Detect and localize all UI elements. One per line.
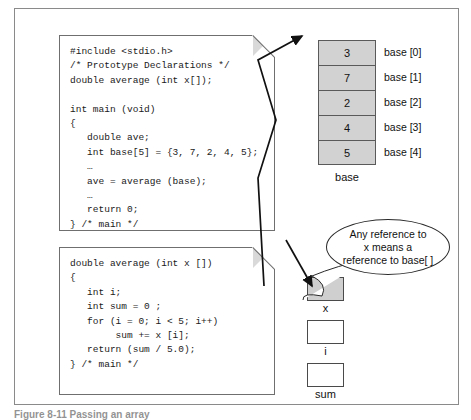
array-cell: 5 xyxy=(318,140,376,165)
variable-box-i xyxy=(307,320,344,344)
array-cell-value: 2 xyxy=(344,97,350,109)
array-index-label: base [4] xyxy=(384,146,421,158)
array-index-label: base [1] xyxy=(384,71,421,83)
callout-line-2: x means a xyxy=(364,241,412,254)
array-name-label: base xyxy=(318,171,376,183)
array-cell: 2 xyxy=(318,90,376,115)
array-cell: 3 xyxy=(318,40,376,65)
code-text-main: #include <stdio.h> /* Prototype Declarat… xyxy=(60,36,274,238)
array-cell-value: 5 xyxy=(344,147,350,159)
array-cell: 7 xyxy=(318,65,376,90)
callout-line-1: Any reference to xyxy=(349,228,426,241)
array-diagram: 3 7 2 4 5 base [0] base [1] base [2] bas… xyxy=(318,40,376,165)
array-index-label: base [0] xyxy=(384,46,421,58)
code-text-average: double average (int x []) { int i; int s… xyxy=(60,248,274,378)
figure-frame: #include <stdio.h> /* Prototype Declarat… xyxy=(14,8,459,405)
variable-label-x: x xyxy=(307,302,344,314)
array-cell-value: 4 xyxy=(344,122,350,134)
callout-bubble: Any reference to x means a reference to … xyxy=(326,219,450,275)
variable-label-i: i xyxy=(307,345,344,357)
figure-caption: Figure 8-11 Passing an array xyxy=(14,409,150,420)
variable-label-sum: sum xyxy=(307,388,344,400)
array-index-label: base [2] xyxy=(384,96,421,108)
page-fold-corner-icon xyxy=(253,247,275,269)
variable-box-sum xyxy=(307,363,344,387)
array-cell-value: 7 xyxy=(344,72,350,84)
array-cell-value: 3 xyxy=(344,47,350,59)
page-fold-corner-icon xyxy=(253,35,275,57)
code-block-average: double average (int x []) { int i; int s… xyxy=(59,247,275,395)
array-index-label: base [3] xyxy=(384,121,421,133)
array-cell: 4 xyxy=(318,115,376,140)
variable-box-x xyxy=(307,277,344,301)
callout-line-3: reference to base[ ] xyxy=(343,254,433,267)
code-block-main: #include <stdio.h> /* Prototype Declarat… xyxy=(59,35,275,231)
